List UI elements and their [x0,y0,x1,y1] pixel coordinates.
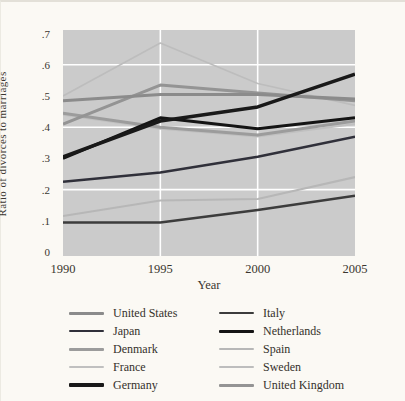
legend-label: United Kingdom [263,378,344,393]
y-axis-title: Ratio of divorces to marriages [0,19,8,269]
legend-label: Sweden [263,360,301,375]
y-tick-label: .4 [10,122,50,133]
legend-item-spain: Spain [219,340,344,358]
plot-area [63,30,355,256]
legend-item-united-kingdom: United Kingdom [219,376,344,394]
legend-item-sweden: Sweden [219,358,344,376]
legend-item-italy: Italy [219,304,344,322]
legend-item-netherlands: Netherlands [219,322,344,340]
y-tick-label: .3 [10,153,50,164]
legend-label: Japan [113,324,140,339]
legend-swatch [219,330,254,333]
legend-swatch [69,366,104,368]
legend-item-france: France [69,358,177,376]
y-tick-label: 0 [10,247,50,258]
x-tick-label: 1990 [33,262,93,277]
y-tick-label: .5 [10,91,50,102]
legend-label: Denmark [113,342,158,357]
y-tick-label: .1 [10,216,50,227]
legend-item-japan: Japan [69,322,177,340]
legend-swatch [219,348,254,350]
x-tick-label: 2000 [228,262,288,277]
legend-swatch [219,384,254,387]
legend-item-denmark: Denmark [69,340,177,358]
x-tick-label: 1995 [130,262,190,277]
legend-column-left: United StatesJapanDenmarkFranceGermany [69,304,177,394]
y-tick-label: .2 [10,185,50,196]
legend-column-right: ItalyNetherlandsSpainSwedenUnited Kingdo… [219,304,344,394]
y-tick-label: .7 [10,29,50,40]
y-tick-label: .6 [10,60,50,71]
x-axis-title: Year [63,278,355,293]
legend-swatch [69,383,104,387]
legend-item-united-states: United States [69,304,177,322]
legend-swatch [69,330,104,333]
legend-label: Italy [263,306,285,321]
legend-swatch [219,312,254,315]
line-chart [63,30,355,256]
legend-label: France [113,360,146,375]
legend-label: Netherlands [263,324,321,339]
legend-swatch [69,348,104,351]
legend-label: Germany [113,378,158,393]
legend-item-germany: Germany [69,376,177,394]
figure-page: Ratio of divorces to marriages .7.6.5.4.… [0,0,405,401]
legend-swatch [219,366,254,368]
legend-label: United States [113,306,177,321]
legend-swatch [69,312,104,315]
legend-label: Spain [263,342,290,357]
x-tick-label: 2005 [325,262,385,277]
